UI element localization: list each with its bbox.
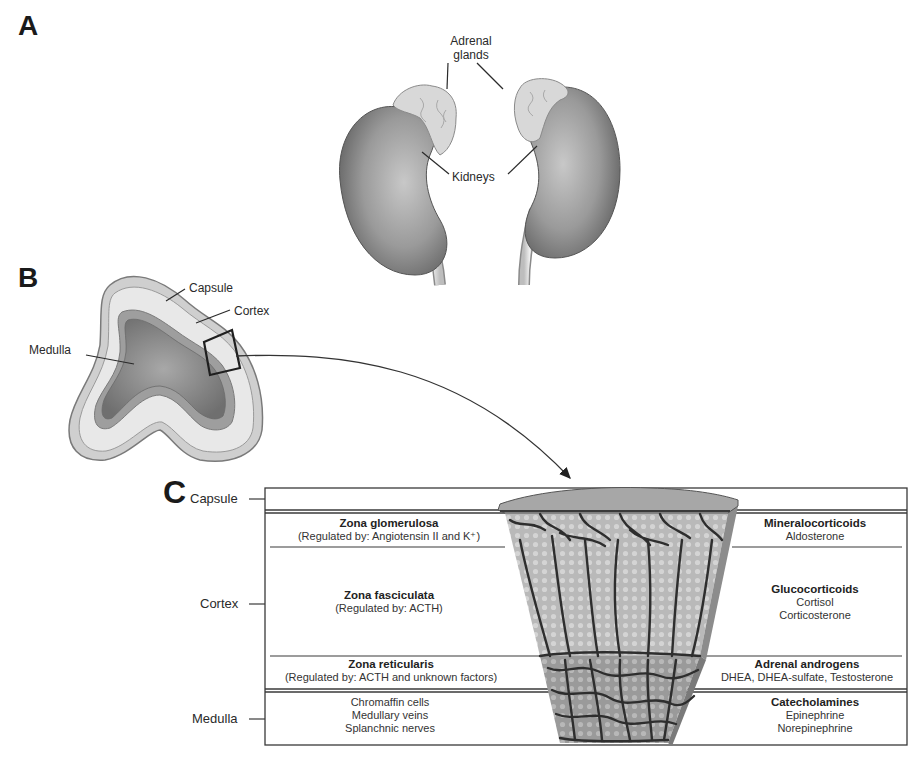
label-kidneys: Kidneys [452, 170, 495, 184]
zone-regulation: (Regulated by: Angiotensin II and K⁺) [268, 530, 510, 543]
medulla-component: Chromaffin cells [300, 696, 480, 709]
product: Aldosterone [735, 530, 895, 543]
diagram-canvas [0, 0, 922, 766]
label-cortex-b: Cortex [234, 304, 269, 318]
zoom-arrow [236, 355, 570, 478]
tissue-wedge [498, 488, 738, 746]
zone-name: Zona reticularis [262, 658, 520, 671]
product-class: Glucocorticoids [735, 583, 895, 596]
product: Norepinephrine [735, 722, 895, 735]
zone-fasciculata: Zona fasciculata (Regulated by: ACTH) [268, 589, 510, 615]
side-label-capsule: Capsule [190, 491, 238, 506]
zone-name: Zona glomerulosa [268, 517, 510, 530]
products-glomerulosa: Mineralocorticoids Aldosterone [735, 517, 895, 543]
product: DHEA, DHEA-sulfate, Testosterone [702, 671, 912, 684]
zone-reticularis: Zona reticularis (Regulated by: ACTH and… [262, 658, 520, 684]
zone-regulation: (Regulated by: ACTH) [268, 602, 510, 615]
zone-name: Zona fasciculata [268, 589, 510, 602]
side-label-cortex: Cortex [200, 596, 238, 611]
medulla-component: Splanchnic nerves [300, 722, 480, 735]
product-class: Mineralocorticoids [735, 517, 895, 530]
side-label-medulla: Medulla [192, 711, 238, 726]
label-medulla-b: Medulla [29, 343, 71, 357]
product-class: Catecholamines [735, 696, 895, 709]
medulla-components: Chromaffin cells Medullary veins Splanch… [300, 696, 480, 735]
product: Corticosterone [735, 609, 895, 622]
label-adrenal-glands-line1: Adrenal [441, 34, 501, 48]
product: Epinephrine [735, 709, 895, 722]
products-fasciculata: Glucocorticoids Cortisol Corticosterone [735, 583, 895, 622]
panel-label-a: A [18, 10, 38, 42]
products-medulla: Catecholamines Epinephrine Norepinephrin… [735, 696, 895, 735]
zone-regulation: (Regulated by: ACTH and unknown factors) [262, 671, 520, 684]
panel-label-c: C [163, 474, 186, 511]
medulla-component: Medullary veins [300, 709, 480, 722]
product-class: Adrenal androgens [702, 658, 912, 671]
panel-label-b: B [18, 262, 38, 294]
zone-glomerulosa: Zona glomerulosa (Regulated by: Angioten… [268, 517, 510, 543]
product: Cortisol [735, 596, 895, 609]
products-reticularis: Adrenal androgens DHEA, DHEA-sulfate, Te… [702, 658, 912, 684]
label-adrenal-glands-line2: glands [441, 48, 501, 62]
label-capsule-b: Capsule [189, 281, 233, 295]
